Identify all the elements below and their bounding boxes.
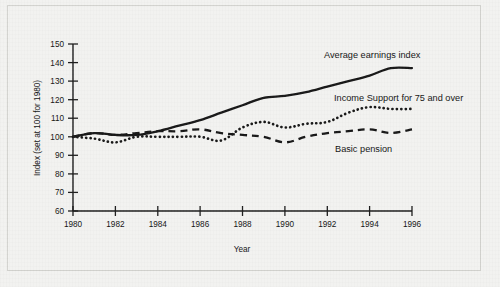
annotation-basic-pension: Basic pension — [335, 144, 392, 154]
x-tick-label: 1980 — [64, 220, 83, 229]
annotation-average-earnings-index: Average earnings index — [324, 50, 421, 60]
chart-page: 150 140 130 120 110 100 90 80 70 60 1980 — [0, 0, 500, 287]
y-tick-label: 150 — [50, 40, 64, 49]
line-chart: 150 140 130 120 110 100 90 80 70 60 1980 — [0, 0, 500, 287]
x-tick-label: 1990 — [276, 220, 295, 229]
y-tick-label: 110 — [51, 114, 64, 123]
annotation-income-support: Income Support for 75 and over — [334, 93, 463, 103]
series-annotations: Average earnings index Income Support fo… — [324, 50, 463, 154]
x-tick-labels: 1980 1982 1984 1986 1988 1990 1992 1994 … — [64, 220, 422, 229]
y-tick-label: 90 — [55, 151, 65, 160]
x-tick-label: 1986 — [191, 220, 210, 229]
x-tick-label: 1984 — [149, 220, 168, 229]
series-income-support-line — [73, 107, 412, 142]
y-tick-label: 80 — [55, 170, 65, 179]
series-group — [73, 68, 412, 143]
y-tick-label: 120 — [50, 96, 64, 105]
y-tick-label: 130 — [50, 77, 64, 86]
y-tick-label: 60 — [55, 207, 65, 216]
y-tick-label: 70 — [55, 188, 65, 197]
y-tick-label: 140 — [50, 59, 64, 68]
y-axis-title: Index (set at 100 for 1980) — [33, 80, 42, 176]
y-tick-label: 100 — [50, 133, 64, 142]
x-axis-title: Year — [234, 245, 251, 254]
x-tick-label: 1996 — [403, 220, 422, 229]
x-tick-label: 1982 — [106, 220, 125, 229]
y-tick-labels: 150 140 130 120 110 100 90 80 70 60 — [50, 40, 64, 216]
x-tick-label: 1988 — [233, 220, 252, 229]
x-tick-label: 1994 — [360, 220, 379, 229]
x-tick-label: 1992 — [318, 220, 337, 229]
